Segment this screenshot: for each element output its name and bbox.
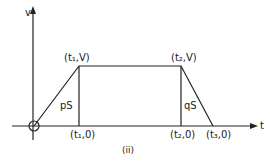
x-axis-label: t <box>260 121 264 131</box>
point-t3-0: (t₃,0) <box>206 130 231 140</box>
y-axis-label: v <box>25 8 31 18</box>
point-t1-0: (t₁,0) <box>70 130 95 140</box>
velocity-profile <box>34 66 213 126</box>
point-t2-v: (t₂,V) <box>171 53 197 63</box>
point-t2-0: (t₂,0) <box>170 130 195 140</box>
point-t1-v: (t₁,V) <box>64 53 90 63</box>
region-ps: pS <box>60 101 73 111</box>
region-qs: qS <box>184 101 197 111</box>
x-arrow-icon <box>250 123 258 129</box>
figure-caption: (ii) <box>122 146 134 155</box>
velocity-time-diagram: v t (t₁,V) (t₂,V) pS qS (t₁,0) (t₂,0) (t… <box>0 0 270 161</box>
